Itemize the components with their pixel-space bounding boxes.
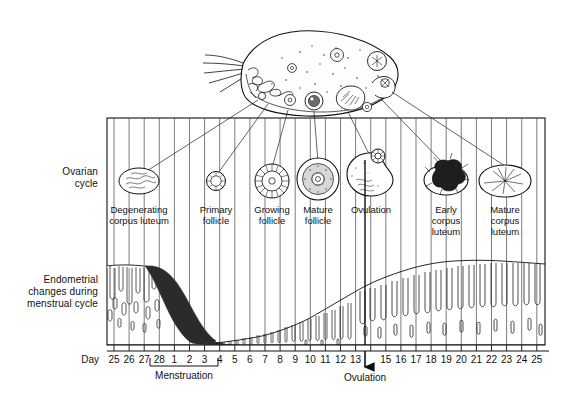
structure-label-mature-corpus-luteum: luteum [491,226,520,237]
axis-tick-label-day-19: 19 [441,354,453,365]
ovarian-cycle-label-line2: cycle [6,178,98,190]
ovary-ovum-in-tube [288,64,297,73]
ovary-ruptured-follicle-ovulation [372,77,395,99]
endometrial-glands-secretory [360,263,542,338]
ovary-cross-section-illustration [203,31,398,116]
leader-line-mature-follicle [314,112,318,162]
axis-tick-label-day-27: 27 [139,354,151,365]
structure-label-early-corpus-luteum: luteum [432,226,461,237]
menstrual-shedding-wedge-tail [205,340,245,345]
axis-tick-label-day-11: 11 [320,354,331,365]
ovarian-structure-primary-follicle [207,172,226,191]
structure-label-mature-corpus-luteum: corpus [491,215,520,226]
axis-tick-label-day-1: 1 [172,354,178,365]
day-axis-title: Day [81,354,99,365]
fimbriae-icon [203,55,247,92]
ovary-growing-follicle [368,52,387,71]
leader-line-mature-corpus-luteum [392,92,505,166]
axis-tick-label-day-2: 2 [187,354,193,365]
structure-label-primary-follicle: Primary [200,204,233,215]
ovarian-structure-growing-follicle [255,164,289,198]
ovary-primordial-follicle-2 [285,95,296,106]
axis-tick-label-day-9: 9 [292,354,298,365]
axis-tick-label-day-25: 25 [531,354,543,365]
structure-label-mature-follicle: follicle [305,215,331,226]
menstrual-shedding-wedge [145,266,216,344]
day-axis: 2526272812345678910111213151617181920212… [81,345,549,365]
axis-tick-labels: 2526272812345678910111213151617181920212… [108,354,542,365]
axis-tick-label-day-22: 22 [486,354,498,365]
leader-line-primary-follicle [216,104,268,176]
axis-tick-label-day-3: 3 [202,354,208,365]
structure-label-degenerating-corpus-luteum: corpus luteum [109,215,169,226]
axis-tick-label-day-15: 15 [380,354,392,365]
axis-tick-label-day-10: 10 [305,354,317,365]
ovarian-structure-mature-follicle [297,158,339,200]
structure-label-growing-follicle: Growing [254,204,289,215]
axis-tick-label-day-8: 8 [277,354,283,365]
menstruation-annotation-label: Menstruation [155,370,213,381]
figure-canvas: Degeneratingcorpus luteumPrimaryfollicle… [0,0,562,396]
ovary-released-ovum [362,102,371,111]
axis-tick-label-day-25: 25 [108,354,120,365]
structure-label-early-corpus-luteum: Early [435,204,457,215]
structure-label-early-corpus-luteum: corpus [432,215,461,226]
ovulation-annotation-label: Ovulation [344,372,386,383]
structure-label-ovulation-structure: Ovulation [351,204,391,215]
ovulation-released-ovum-icon [371,149,385,163]
leader-line-ovulation [348,112,371,158]
leader-line-early-corpus-luteum [382,100,446,166]
ovarian-structure-degenerating-corpus-luteum [119,168,159,194]
axis-tick-label-day-26: 26 [124,354,136,365]
endometrial-glands-proliferative-early [222,327,287,345]
axis-tick-label-day-7: 7 [262,354,268,365]
axis-tick-label-day-18: 18 [426,354,438,365]
axis-tick-label-day-17: 17 [410,354,422,365]
ovarian-cycle-row-label: Ovarian cycle [6,166,98,190]
structure-label-degenerating-corpus-luteum: Degenerating [110,204,167,215]
leader-line-degenerating-corpus-luteum [139,100,258,176]
endometrial-label-line2: changes during [2,286,98,298]
ovary-primordial-follicle-3 [258,92,265,99]
axis-tick-label-day-23: 23 [501,354,513,365]
axis-tick-label-day-5: 5 [232,354,238,365]
structure-label-primary-follicle: follicle [203,215,229,226]
ovary-primordial-follicle-1 [331,49,344,62]
axis-tick-label-day-16: 16 [395,354,407,365]
axis-tick-label-day-24: 24 [516,354,528,365]
endometrial-glands-proliferative-mid [292,303,351,345]
ovary-mature-follicle [305,92,323,110]
ovarian-structure-labels: Degeneratingcorpus luteumPrimaryfollicle… [109,204,520,237]
menstrual-cycle-figure: Ovarian cycle Endometrial changes during… [0,0,562,396]
structure-label-mature-corpus-luteum: Mature [490,204,520,215]
endometrium-section [107,260,545,345]
axis-tick-label-day-12: 12 [335,354,347,365]
endometrial-label-line1: Endometrial [2,274,98,286]
axis-tick-label-day-13: 13 [350,354,362,365]
endometrial-changes-row-label: Endometrial changes during menstrual cyc… [2,274,98,310]
axis-tick-label-day-21: 21 [471,354,483,365]
axis-tick-marks [114,345,537,351]
endometrial-label-line3: menstrual cycle [2,298,98,310]
axis-tick-label-day-6: 6 [247,354,253,365]
axis-tick-label-day-28: 28 [154,354,166,365]
axis-tick-label-day-20: 20 [456,354,468,365]
ovary-corpus-luteum [336,86,364,110]
ovarian-cycle-label-line1: Ovarian [6,166,98,178]
structure-label-mature-follicle: Mature [303,204,333,215]
ovarian-structure-mature-corpus-luteum [479,165,531,197]
structure-label-growing-follicle: follicle [259,215,285,226]
